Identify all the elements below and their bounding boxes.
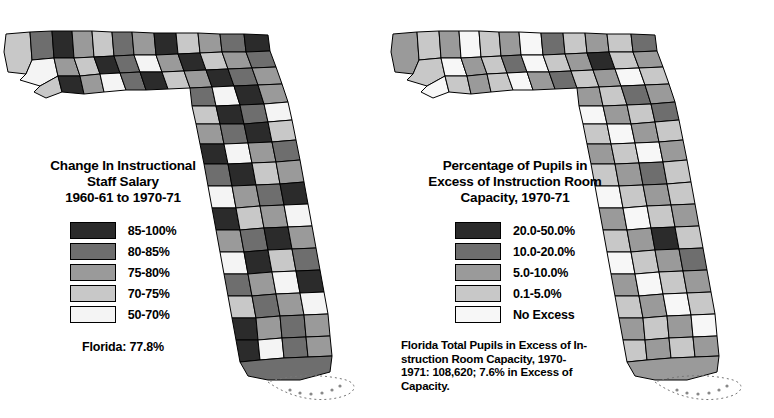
legend-swatch [70, 264, 116, 281]
legend-swatch [455, 264, 501, 281]
legend-row: 85-100% [70, 220, 177, 241]
legend-swatch [455, 243, 501, 260]
legend-label: 10.0-20.0% [513, 245, 575, 259]
legend-row: No Excess [455, 304, 575, 325]
legend-label: 5.0-10.0% [513, 266, 568, 280]
legend-right: Percentage of Pupils in Excess of Instru… [401, 158, 629, 393]
legend-items-left: 85-100% 80-85% 75-80% 70-75% 50-70% [70, 220, 177, 325]
legend-footnote-left: Florida: 77.8% [18, 340, 228, 354]
figure-root: Change In Instructional Staff Salary 196… [0, 0, 774, 418]
map-panel-right: Percentage of Pupils in Excess of Instru… [387, 0, 774, 418]
legend-swatch [455, 306, 501, 323]
legend-title-right: Percentage of Pupils in Excess of Instru… [401, 158, 629, 206]
legend-label: 0.1-5.0% [513, 287, 561, 301]
legend-row: 80-85% [70, 241, 177, 262]
legend-label: 85-100% [128, 224, 177, 238]
map-panel-left: Change In Instructional Staff Salary 196… [0, 0, 387, 418]
legend-label: No Excess [513, 308, 574, 322]
legend-note-right: Florida Total Pupils in Excess of In- st… [401, 339, 629, 393]
legend-label: 80-85% [128, 245, 170, 259]
legend-swatch [70, 285, 116, 302]
legend-row: 0.1-5.0% [455, 283, 575, 304]
legend-swatch [455, 222, 501, 239]
legend-title-left: Change In Instructional Staff Salary 196… [18, 158, 228, 206]
legend-swatch [70, 306, 116, 323]
legend-items-right: 20.0-50.0% 10.0-20.0% 5.0-10.0% 0.1-5.0%… [455, 220, 575, 325]
florida-keys-dots [675, 384, 728, 395]
legend-row: 10.0-20.0% [455, 241, 575, 262]
legend-row: 70-75% [70, 283, 177, 304]
legend-left: Change In Instructional Staff Salary 196… [18, 158, 228, 354]
legend-label: 20.0-50.0% [513, 224, 575, 238]
legend-row: 5.0-10.0% [455, 262, 575, 283]
legend-swatch [455, 285, 501, 302]
legend-row: 75-80% [70, 262, 177, 283]
legend-label: 70-75% [128, 287, 170, 301]
legend-row: 20.0-50.0% [455, 220, 575, 241]
legend-swatch [70, 243, 116, 260]
florida-keys-dots [288, 384, 341, 395]
legend-label: 75-80% [128, 266, 170, 280]
legend-row: 50-70% [70, 304, 177, 325]
legend-label: 50-70% [128, 308, 170, 322]
legend-swatch [70, 222, 116, 239]
